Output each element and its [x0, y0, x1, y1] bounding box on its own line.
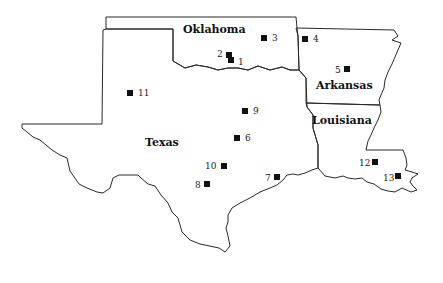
site-label: 8	[195, 180, 201, 190]
site-label: 2	[217, 49, 223, 59]
south-central-us-map: Oklahoma Arkansas Louisiana Texas 123456…	[0, 0, 443, 283]
state-label-louisiana: Louisiana	[312, 114, 372, 127]
site-label: 6	[245, 133, 251, 143]
site-label: 11	[138, 88, 149, 98]
site-label: 3	[272, 33, 278, 43]
site-marker-icon	[344, 66, 350, 72]
state-label-oklahoma: Oklahoma	[183, 23, 246, 36]
site-marker-icon	[204, 181, 210, 187]
site-marker-icon	[274, 174, 280, 180]
state-labels: Oklahoma Arkansas Louisiana Texas	[145, 23, 373, 149]
site-marker-icon	[234, 135, 240, 141]
site-label: 9	[253, 106, 259, 116]
site-marker-icon	[261, 35, 267, 41]
site-marker-icon	[242, 108, 248, 114]
site-marker-icon	[221, 163, 227, 169]
site-label: 12	[359, 158, 370, 168]
site-label: 7	[265, 173, 271, 183]
site-label: 1	[238, 57, 244, 67]
state-label-arkansas: Arkansas	[315, 79, 373, 92]
site-label: 13	[383, 173, 395, 183]
site-marker-icon	[395, 173, 401, 179]
state-label-texas: Texas	[145, 136, 179, 149]
site-marker-icon	[226, 52, 232, 58]
site-marker-icon	[127, 90, 133, 96]
site-label: 10	[205, 161, 217, 171]
site-markers: 12345678910111213	[127, 33, 401, 190]
site-label: 5	[335, 65, 341, 75]
site-label: 4	[313, 34, 319, 44]
site-marker-icon	[302, 36, 308, 42]
site-marker-icon	[372, 159, 378, 165]
